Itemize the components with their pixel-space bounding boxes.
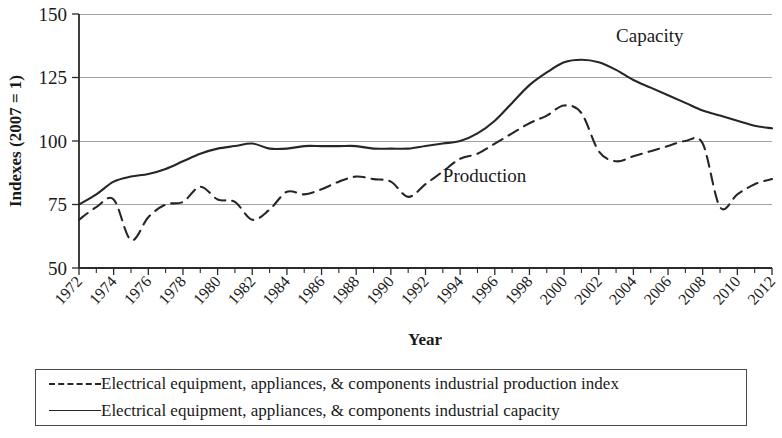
- x-tick-label: 2006: [640, 273, 674, 308]
- legend-item-capacity: Electrical equipment, appliances, & comp…: [36, 397, 746, 424]
- y-axis-ticks: 5075100125150: [39, 4, 80, 279]
- chart-figure: 5075100125150 19721974197619781980198219…: [0, 0, 782, 438]
- solid-line-icon: [49, 405, 101, 417]
- y-tick-label: 150: [39, 4, 68, 25]
- x-tick-label: 1986: [294, 273, 328, 308]
- x-tick-label: 2012: [744, 273, 778, 308]
- y-tick-label: 125: [39, 67, 68, 88]
- x-tick-label: 2000: [536, 273, 570, 308]
- x-tick-label: 2002: [571, 273, 605, 308]
- annotation-capacity: Capacity: [616, 25, 684, 46]
- x-tick-label: 1980: [190, 273, 224, 308]
- series-line-capacity: [79, 60, 772, 205]
- series-line-production: [79, 105, 772, 240]
- x-tick-label: 1994: [432, 273, 466, 308]
- y-tick-label: 50: [48, 258, 67, 279]
- y-axis-title: Indexes (2007 = 1): [6, 75, 25, 207]
- line-chart: 5075100125150 19721974197619781980198219…: [0, 0, 782, 365]
- x-tick-label: 1974: [86, 273, 120, 308]
- x-tick-label: 2010: [710, 273, 744, 308]
- x-tick-label: 2008: [675, 273, 709, 308]
- legend-label-capacity: Electrical equipment, appliances, & comp…: [101, 402, 560, 419]
- x-tick-label: 1982: [224, 273, 258, 308]
- x-tick-label: 1988: [328, 273, 362, 308]
- x-tick-label: 1996: [467, 273, 501, 308]
- x-axis-title: Year: [408, 330, 442, 349]
- dashed-line-icon: [49, 378, 101, 390]
- x-tick-label: 1990: [363, 273, 397, 308]
- x-tick-label: 1998: [502, 273, 536, 308]
- y-tick-label: 75: [48, 194, 67, 215]
- x-tick-label: 2004: [606, 273, 640, 308]
- annotation-production: Production: [443, 165, 527, 186]
- legend-label-production: Electrical equipment, appliances, & comp…: [101, 375, 619, 392]
- x-tick-label: 1976: [120, 273, 154, 308]
- x-tick-label: 1992: [398, 273, 432, 308]
- y-tick-label: 100: [39, 131, 68, 152]
- x-axis-ticks: 1972197419761978198019821984198619881990…: [51, 268, 778, 308]
- x-tick-label: 1978: [155, 273, 189, 308]
- x-tick-label: 1984: [259, 273, 293, 308]
- chart-legend: Electrical equipment, appliances, & comp…: [35, 369, 747, 426]
- legend-item-production: Electrical equipment, appliances, & comp…: [36, 370, 746, 397]
